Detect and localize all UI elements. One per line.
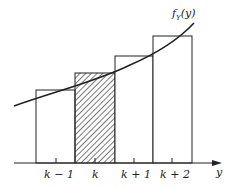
tick-label-k-plus-2: k + 2 — [160, 168, 190, 181]
bar-k-plus-2 — [153, 36, 192, 163]
diagram-canvas — [0, 0, 233, 188]
bar-k-hatched — [75, 73, 115, 163]
histogram-diagram: fY(y) k − 1 k k + 1 k + 2 y — [0, 0, 233, 188]
bar-k-plus-1 — [115, 56, 153, 163]
curve-label: fY(y) — [172, 7, 196, 22]
tick-label-k-plus-1: k + 1 — [121, 168, 151, 181]
tick-label-k-minus-1: k − 1 — [44, 168, 74, 181]
tick-label-k: k — [92, 168, 99, 181]
axis-label-y: y — [216, 166, 222, 179]
bar-k-minus-1 — [36, 90, 75, 163]
curve-label-arg: (y) — [181, 7, 196, 20]
